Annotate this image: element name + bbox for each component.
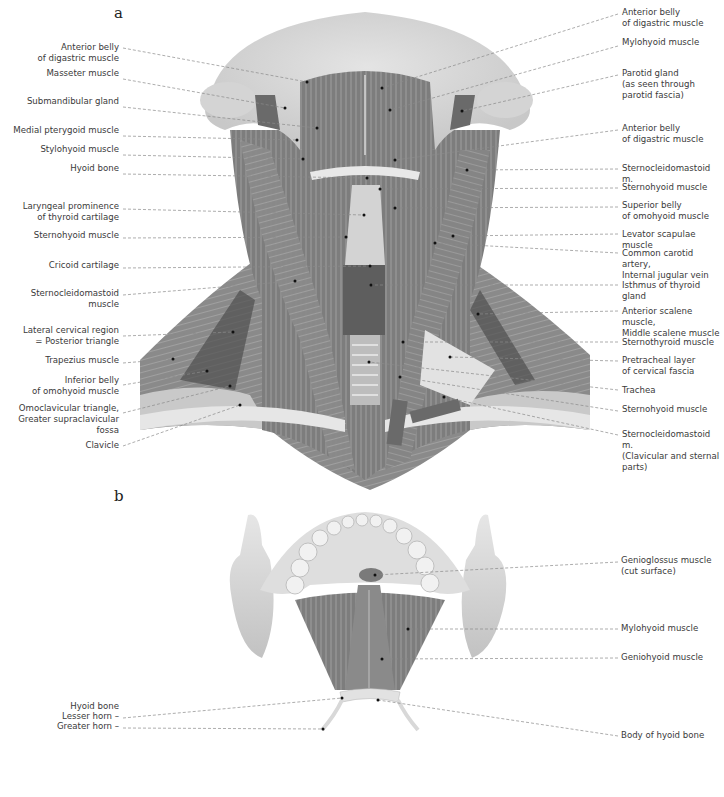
label-cricoid-cartilage: Cricoid cartilage — [49, 260, 119, 271]
label-geniohyoid-muscle: Geniohyoid muscle — [621, 652, 703, 663]
label-isthmus-thyroid-gland: Isthmus of thyroid gland — [622, 280, 724, 302]
label-parotid-gland: Parotid gland (as seen through parotid f… — [622, 68, 695, 101]
label-anterior-belly-digastric-right-1: Anterior belly of digastric muscle — [622, 7, 704, 29]
label-greater-horn: Greater horn – — [57, 721, 119, 732]
label-omoclavicular-triangle: Omoclavicular triangle, Greater supracla… — [0, 403, 119, 436]
label-hyoid-bone: Hyoid bone — [70, 163, 119, 174]
label-common-carotid-artery: Common carotid artery, Internal jugular … — [622, 248, 724, 281]
label-trachea: Trachea — [622, 385, 656, 396]
label-laryngeal-prominence: Laryngeal prominence of thyroid cartilag… — [23, 201, 119, 223]
label-sternocleidomastoid-muscle: Sternocleidomastoid muscle — [0, 288, 119, 310]
label-inferior-belly-omohyoid: Inferior belly of omohyoid muscle — [32, 375, 119, 397]
label-lateral-cervical-region: Lateral cervical region = Posterior tria… — [23, 325, 119, 347]
label-masseter-muscle: Masseter muscle — [46, 68, 119, 79]
panel-a-neck-illustration — [140, 12, 590, 490]
label-sternohyoid-muscle-left: Sternohyoid muscle — [34, 230, 119, 241]
label-body-of-hyoid-bone: Body of hyoid bone — [621, 730, 704, 741]
label-sternohyoid-muscle-lower: Sternohyoid muscle — [622, 404, 707, 415]
label-sternothyroid-muscle: Sternothyroid muscle — [622, 337, 714, 348]
label-genioglossus-muscle: Genioglossus muscle (cut surface) — [621, 555, 711, 577]
label-sternocleidomastoid-parts: Sternocleidomastoid m. (Clavicular and s… — [622, 429, 724, 473]
label-medial-pterygoid-muscle: Medial pterygoid muscle — [13, 125, 119, 136]
anatomy-illustration — [0, 0, 724, 797]
label-submandibular-gland: Submandibular gland — [27, 96, 119, 107]
label-mylohyoid-muscle-b: Mylohyoid muscle — [621, 623, 698, 634]
label-stylohyoid-muscle: Stylohyoid muscle — [40, 144, 119, 155]
label-clavicle: Clavicle — [85, 440, 119, 451]
label-pretracheal-layer: Pretracheal layer of cervical fascia — [622, 355, 695, 377]
label-scalene-muscles: Anterior scalene muscle, Middle scalene … — [622, 306, 724, 339]
panel-b-mandible-illustration — [230, 512, 506, 730]
label-trapezius-muscle: Trapezius muscle — [45, 355, 119, 366]
label-superior-belly-omohyoid: Superior belly of omohyoid muscle — [622, 200, 709, 222]
label-sternohyoid-muscle-right: Sternohyoid muscle — [622, 182, 707, 193]
label-mylohyoid-muscle: Mylohyoid muscle — [622, 37, 699, 48]
label-anterior-belly-digastric-left: Anterior belly of digastric muscle — [38, 42, 120, 64]
label-anterior-belly-digastric-right-2: Anterior belly of digastric muscle — [622, 123, 704, 145]
